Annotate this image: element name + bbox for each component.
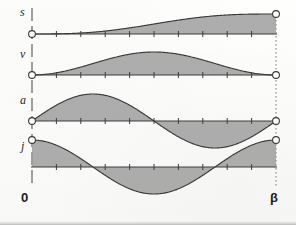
- endpoint-marker-j-end: [273, 137, 280, 144]
- endpoint-marker-a-start: [29, 118, 36, 125]
- endpoint-marker-s-start: [29, 31, 36, 38]
- motion-curves-plot: [0, 0, 296, 225]
- endpoint-marker-v-end: [273, 72, 280, 79]
- axis-label-s: s: [20, 6, 25, 18]
- x-start-label-zero: 0: [21, 191, 28, 204]
- axis-label-v: v: [20, 48, 25, 60]
- endpoint-marker-j-start: [29, 137, 36, 144]
- endpoint-marker-s-end: [273, 11, 280, 18]
- x-end-label-beta: β: [270, 191, 278, 204]
- curve-fill-v: [32, 52, 276, 75]
- curve-panel-v: [29, 52, 280, 78]
- axis-label-a: a: [20, 94, 26, 106]
- motion-profile-figure: s v a j 0 β: [0, 0, 296, 225]
- endpoint-marker-a-end: [273, 118, 280, 125]
- curve-panel-j: [29, 137, 280, 194]
- axis-label-j: j: [21, 140, 24, 152]
- endpoint-marker-v-start: [29, 72, 36, 79]
- curve-panel-a: [29, 94, 280, 148]
- curve-panel-s: [29, 11, 280, 38]
